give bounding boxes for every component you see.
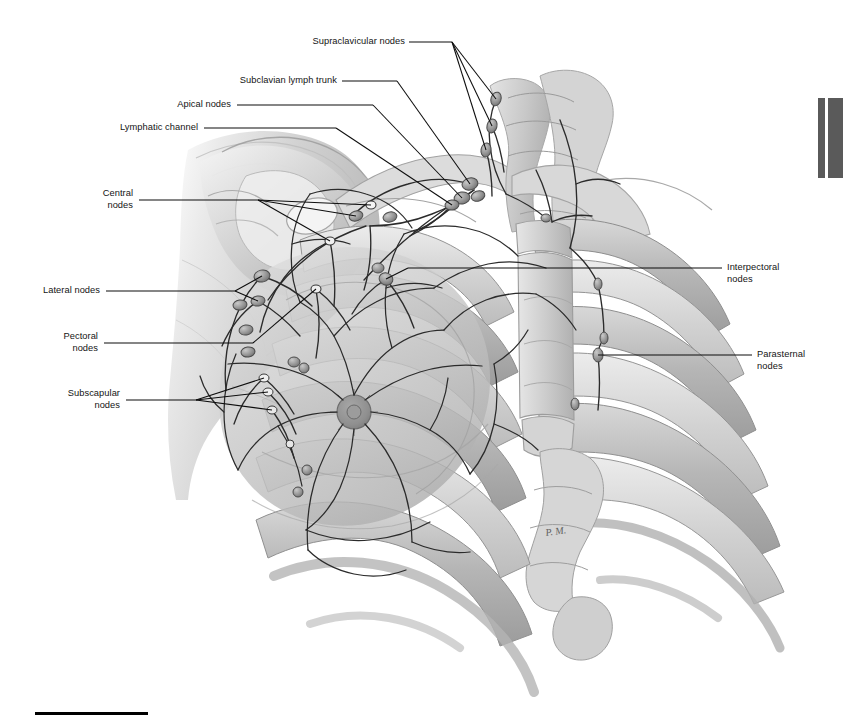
- footer-rule: [35, 712, 148, 715]
- leader-supraclavicular-b3: [452, 42, 486, 150]
- leader-supraclavicular-b1: [452, 42, 496, 99]
- page-tab-mark-right: [828, 98, 843, 178]
- anatomical-illustration: P. M.: [0, 0, 843, 718]
- leader-supraclavicular-b2: [452, 42, 492, 126]
- illustration-page: P. M. Supraclavicular nodes Subclavian l…: [0, 0, 843, 718]
- page-tab-mark-left: [818, 98, 825, 178]
